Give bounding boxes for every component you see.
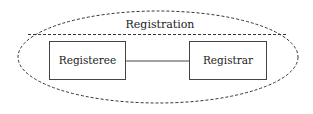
registeree-label: Registeree — [59, 54, 116, 66]
diagram-canvas: Registration Registeree Registrar — [0, 0, 313, 114]
registrar-label: Registrar — [203, 54, 254, 66]
group-label: Registration — [126, 18, 195, 31]
